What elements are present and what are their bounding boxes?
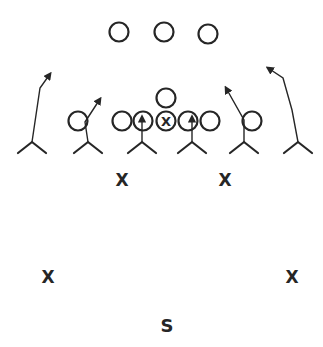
play-diagram: X [0, 0, 323, 347]
player-circle-icon [243, 112, 262, 131]
player-circle-icon [157, 89, 176, 108]
defender-rusher-right-inside [178, 117, 206, 153]
defender-stance-icon [230, 142, 258, 153]
route-arrow-icon [268, 68, 298, 142]
center-mark: X [161, 114, 171, 129]
defender-rusher-far-left [18, 74, 50, 153]
defender-rusher-far-right [268, 68, 312, 153]
defender-lb-right: X [218, 172, 231, 189]
defender-cb-right: X [285, 269, 298, 286]
route-arrow-icon [226, 88, 244, 142]
offense-center: X [157, 112, 176, 131]
player-circle-icon [199, 25, 218, 44]
defender-rusher-left [74, 99, 102, 153]
defender-stance-icon [284, 142, 312, 153]
offense-left-wing [69, 112, 88, 131]
offense-players: X [69, 23, 262, 131]
defender-cb-left: X [41, 269, 54, 286]
offense-back-left [110, 23, 129, 42]
offense-back-right [199, 25, 218, 44]
defender-stance-icon [18, 142, 46, 153]
player-circle-icon [179, 112, 198, 131]
player-circle-icon [113, 112, 132, 131]
offense-right-guard [179, 112, 198, 131]
player-circle-icon [110, 23, 129, 42]
defender-stance-icon [128, 142, 156, 153]
offense-back-middle [155, 23, 174, 42]
defender-stance-icon [178, 142, 206, 153]
offense-left-tackle [113, 112, 132, 131]
defender-lb-left: X [115, 172, 128, 189]
defender-stance-icon [74, 142, 102, 153]
player-circle-icon [155, 23, 174, 42]
player-circle-icon [69, 112, 88, 131]
player-circle-icon [201, 112, 220, 131]
offense-right-tackle [201, 112, 220, 131]
offense-right-wing [243, 112, 262, 131]
offense-qb [157, 89, 176, 108]
player-circle-icon [134, 112, 153, 131]
offense-left-guard [134, 112, 153, 131]
defender-safety: S [161, 317, 174, 335]
route-arrow-icon [32, 74, 50, 142]
